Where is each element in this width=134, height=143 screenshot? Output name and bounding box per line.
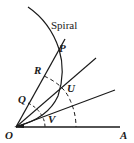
point-o-label: O — [5, 130, 13, 141]
spiral-diagram: Spiral P R U Q V O A — [0, 0, 134, 143]
point-p-label: P — [59, 43, 66, 54]
point-a-label: A — [120, 130, 127, 141]
point-v-label: V — [48, 114, 55, 125]
point-q-label: Q — [18, 94, 26, 105]
point-u-label: U — [67, 83, 75, 94]
ray-ou — [16, 58, 96, 127]
spiral-label: Spiral — [51, 20, 77, 31]
point-r-label: R — [34, 65, 41, 76]
